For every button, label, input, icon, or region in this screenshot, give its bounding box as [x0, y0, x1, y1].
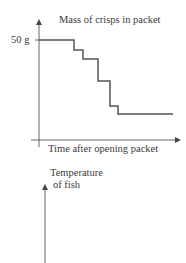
chart2-y-axis-label-line2: of fish	[53, 179, 80, 191]
chart1-x-axis-label: Time after opening packet	[48, 143, 158, 155]
chart1-title: Mass of crisps in packet	[59, 14, 160, 26]
chart1-y-tick-label: 50 g	[11, 34, 29, 46]
chart2-y-axis-label-line1: Temperature	[50, 167, 103, 179]
mass-step-line	[39, 40, 173, 114]
